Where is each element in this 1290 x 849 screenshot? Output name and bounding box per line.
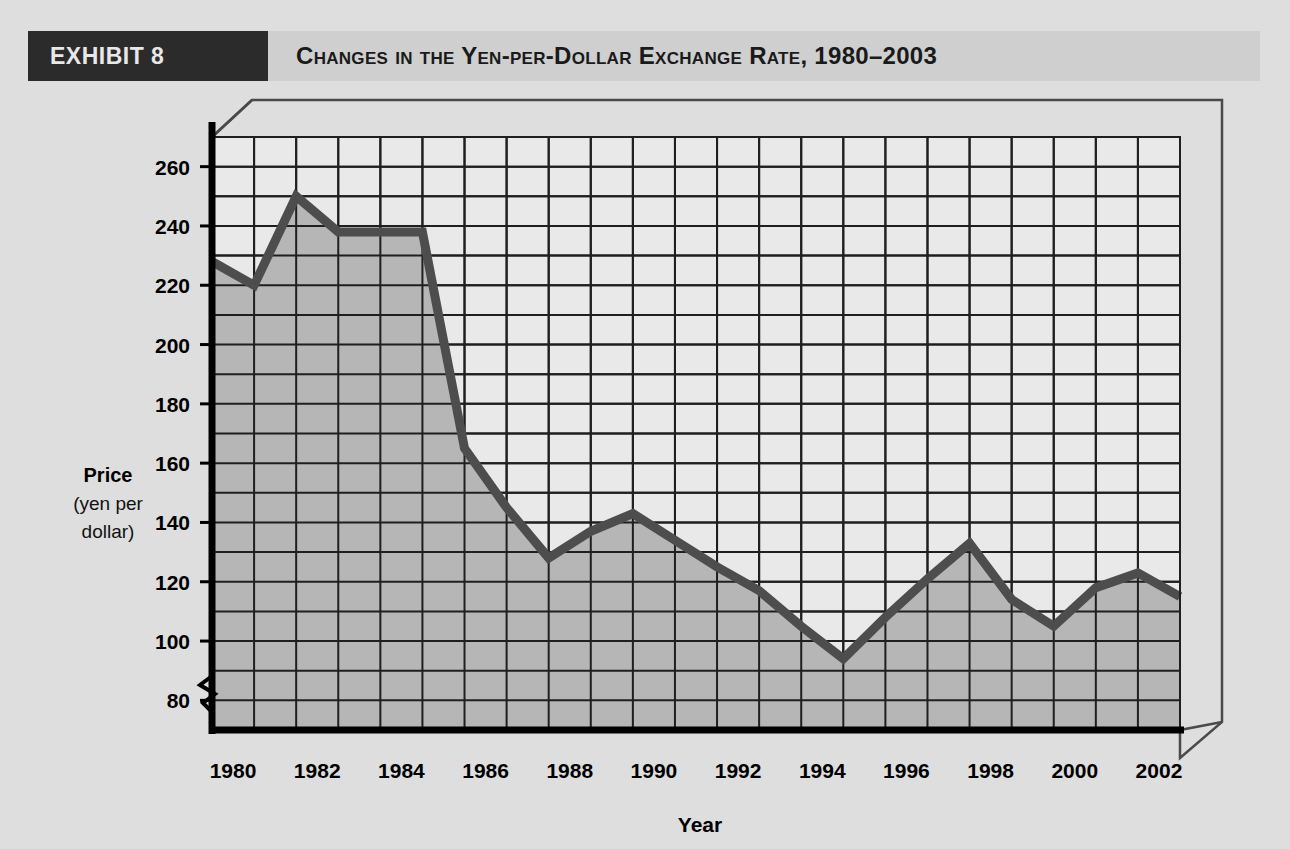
y-axis-title-line1: Price — [84, 464, 133, 486]
x-tick-labels: 1980198219841986198819901992199419961998… — [210, 759, 1183, 782]
y-tick-label-140: 140 — [155, 511, 190, 534]
y-tick-label-220: 220 — [155, 274, 190, 297]
x-tick-label-1992: 1992 — [715, 759, 762, 782]
y-tick-label-100: 100 — [155, 630, 190, 653]
y-axis-title-line2: (yen per — [73, 493, 143, 514]
x-tick-label-1990: 1990 — [631, 759, 678, 782]
x-axis-title: Year — [678, 813, 722, 836]
x-tick-label-1988: 1988 — [546, 759, 593, 782]
y-tick-label-120: 120 — [155, 571, 190, 594]
exhibit-title: Changes in the Yen-per-Dollar Exchange R… — [296, 31, 937, 81]
x-tick-label-1984: 1984 — [378, 759, 425, 782]
x-tick-label-2000: 2000 — [1051, 759, 1098, 782]
y-tick-label-240: 240 — [155, 215, 190, 238]
x-tick-label-1998: 1998 — [967, 759, 1014, 782]
y-tick-labels: 80100120140160180200220240260 — [155, 156, 212, 713]
y-tick-label-260: 260 — [155, 156, 190, 179]
exhibit-page: EXHIBIT 8 Changes in the Yen-per-Dollar … — [0, 0, 1290, 849]
x-tick-label-1994: 1994 — [799, 759, 846, 782]
chart-container: 80100120140160180200220240260 1980198219… — [0, 82, 1290, 849]
exhibit-number-tag: EXHIBIT 8 — [28, 31, 268, 81]
x-tick-label-1996: 1996 — [883, 759, 930, 782]
x-tick-label-2002: 2002 — [1136, 759, 1183, 782]
x-tick-label-1982: 1982 — [294, 759, 341, 782]
yen-per-dollar-area-chart: 80100120140160180200220240260 1980198219… — [0, 82, 1290, 849]
x-tick-label-1980: 1980 — [210, 759, 257, 782]
y-axis-title-line3: dollar) — [82, 521, 135, 542]
y-tick-label-200: 200 — [155, 334, 190, 357]
y-tick-label-180: 180 — [155, 393, 190, 416]
exhibit-header-band: EXHIBIT 8 Changes in the Yen-per-Dollar … — [28, 31, 1260, 81]
x-tick-label-1986: 1986 — [462, 759, 509, 782]
y-tick-label-80: 80 — [167, 689, 190, 712]
y-tick-label-160: 160 — [155, 452, 190, 475]
